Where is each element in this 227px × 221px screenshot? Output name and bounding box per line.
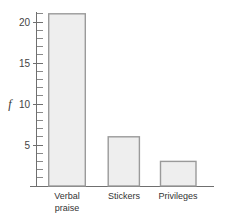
- bar-chart: 20 15 10 5 f Verbal praise Stickers Priv…: [0, 0, 227, 221]
- y-tick-label-10: 10: [19, 99, 31, 110]
- y-axis-title: f: [8, 97, 13, 111]
- bar-verbal-praise: [49, 14, 86, 186]
- y-tick-label-20: 20: [19, 17, 31, 28]
- y-tick-label-15: 15: [19, 58, 31, 69]
- y-axis-minor-ticks: [37, 14, 44, 178]
- bar-stickers: [108, 137, 139, 186]
- x-label-verbal-praise-line2: praise: [55, 203, 80, 213]
- y-tick-label-5: 5: [24, 140, 30, 151]
- x-label-privileges: Privileges: [158, 191, 198, 201]
- x-label-stickers: Stickers: [108, 191, 141, 201]
- chart-canvas: 20 15 10 5 f Verbal praise Stickers Priv…: [0, 0, 227, 221]
- bar-privileges: [161, 161, 197, 186]
- y-axis-major-ticks: [33, 23, 43, 146]
- x-label-verbal-praise-line1: Verbal: [54, 191, 80, 201]
